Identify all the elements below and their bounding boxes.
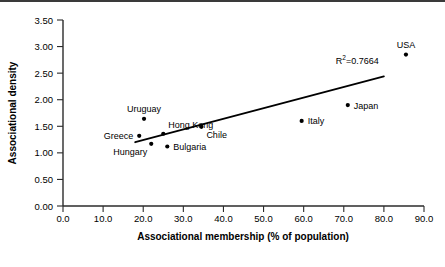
chart-figure: 0.000.501.001.502.002.503.003.50 0.010.0… <box>0 0 445 267</box>
y-tick-label: 3.50 <box>35 15 54 26</box>
data-point-marker <box>161 132 165 136</box>
data-point-marker <box>404 52 408 56</box>
x-tick-label: 0.0 <box>56 213 69 224</box>
y-tick-label: 1.00 <box>35 147 54 158</box>
trend-line <box>135 76 384 142</box>
y-axis-title: Associational density <box>7 61 18 164</box>
y-axis-ticks: 0.000.501.001.502.002.503.003.50 <box>35 15 64 212</box>
data-point-label: Chile <box>206 130 227 140</box>
x-tick-label: 30.0 <box>174 213 193 224</box>
data-point-marker <box>142 117 146 121</box>
x-tick-label: 20.0 <box>134 213 153 224</box>
y-tick-label: 0.00 <box>35 201 54 212</box>
data-point: USA <box>397 40 416 57</box>
data-point-marker <box>300 119 304 123</box>
data-point: Italy <box>300 116 325 126</box>
data-point: Japan <box>346 101 379 111</box>
x-tick-label: 40.0 <box>214 213 233 224</box>
data-point: Hungary <box>113 142 153 157</box>
x-axis-ticks: 0.010.020.030.040.050.060.070.080.090.0 <box>56 206 433 224</box>
y-tick-label: 2.00 <box>35 94 54 105</box>
data-point-label: Uruguay <box>127 104 162 114</box>
x-tick-label: 50.0 <box>254 213 273 224</box>
y-tick-label: 0.50 <box>35 174 54 185</box>
scatter-plot-svg: 0.000.501.001.502.002.503.003.50 0.010.0… <box>0 0 445 267</box>
y-tick-label: 3.00 <box>35 41 54 52</box>
x-tick-label: 70.0 <box>335 213 354 224</box>
data-point-label: Hong Kong <box>168 120 213 130</box>
x-axis-title: Associational membership (% of populatio… <box>137 231 349 242</box>
x-tick-label: 60.0 <box>294 213 313 224</box>
data-point-label: Italy <box>308 116 325 126</box>
data-point-marker <box>137 134 141 138</box>
r-squared-annotation: R2=0.7664 <box>336 54 379 66</box>
data-point-marker <box>165 144 169 148</box>
data-point: Bulgaria <box>165 142 206 152</box>
x-tick-label: 80.0 <box>375 213 394 224</box>
data-point-label: Japan <box>354 101 379 111</box>
data-point-marker <box>149 142 153 146</box>
data-point-label: Greece <box>104 131 134 141</box>
x-tick-label: 10.0 <box>94 213 113 224</box>
data-point-label: Bulgaria <box>173 142 206 152</box>
y-tick-label: 1.50 <box>35 121 54 132</box>
data-point: Uruguay <box>127 104 162 121</box>
data-point: Greece <box>104 131 142 141</box>
data-point-marker <box>346 103 350 107</box>
data-point-label: USA <box>397 40 416 50</box>
data-point-marker <box>199 125 203 129</box>
x-tick-label: 90.0 <box>415 213 434 224</box>
data-point-label: Hungary <box>113 147 148 157</box>
y-tick-label: 2.50 <box>35 68 54 79</box>
